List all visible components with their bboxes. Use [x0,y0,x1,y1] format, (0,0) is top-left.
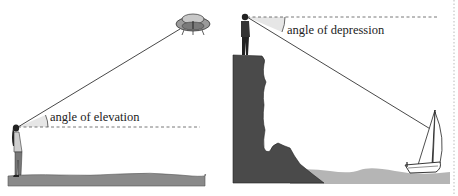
sailboat-icon [405,110,442,173]
observer-man-icon [241,14,250,55]
elevation-angle-wedge [18,115,48,127]
diagram-canvas [0,0,458,196]
depression-angle-wedge [247,17,285,32]
elevation-diagram [8,14,210,186]
angle-of-depression-label: angle of depression [287,23,384,38]
ground [8,173,206,186]
cliff [233,55,324,183]
flying-saucer-icon [176,14,210,35]
depression-diagram [233,14,450,184]
observer-woman-icon [12,125,22,178]
angle-of-elevation-label: angle of elevation [50,110,140,125]
